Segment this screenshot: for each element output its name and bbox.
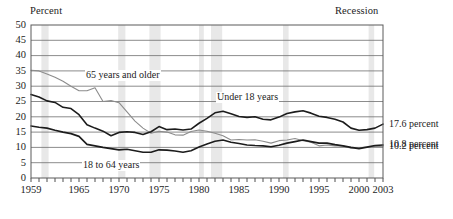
y-tick-45: 45 bbox=[0, 35, 26, 46]
y-tick-5: 5 bbox=[0, 158, 26, 169]
x-tick-label-2003: 2003 bbox=[363, 185, 403, 196]
series-label-18-to-64-years: 18 to 64 years bbox=[82, 160, 140, 171]
y-tick-20: 20 bbox=[0, 112, 26, 123]
y-tick-10: 10 bbox=[0, 142, 26, 153]
x-tick-label-1959: 1959 bbox=[11, 185, 51, 196]
y-tick-15: 15 bbox=[0, 127, 26, 138]
y-tick-35: 35 bbox=[0, 66, 26, 77]
y-tick-50: 50 bbox=[0, 20, 26, 31]
series-label-65-years-and-older: 65 years and older bbox=[85, 70, 161, 81]
x-tick-label-1970: 1970 bbox=[99, 185, 139, 196]
series-label-under-18-years: Under 18 years bbox=[216, 92, 279, 103]
end-label-under-18-years: 17.6 percent bbox=[389, 119, 438, 130]
y-tick-40: 40 bbox=[0, 50, 26, 61]
series-line-18-to-64-years bbox=[31, 126, 383, 152]
series-line-under-18-years bbox=[31, 94, 383, 135]
end-label-18-to-64-years: 10.8 percent bbox=[389, 139, 438, 150]
y-tick-25: 25 bbox=[0, 96, 26, 107]
x-tick-label-1985: 1985 bbox=[219, 185, 259, 196]
poverty-rate-line-chart: Percent Recession 05101520253035404550 1… bbox=[0, 0, 453, 219]
axis-ticks bbox=[31, 178, 383, 182]
x-tick-label-1965: 1965 bbox=[59, 185, 99, 196]
y-tick-30: 30 bbox=[0, 81, 26, 92]
x-tick-label-1975: 1975 bbox=[139, 185, 179, 196]
series-line-65-years-and-older bbox=[31, 70, 383, 148]
y-tick-0: 0 bbox=[0, 173, 26, 184]
x-tick-label-1995: 1995 bbox=[299, 185, 339, 196]
x-tick-label-1990: 1990 bbox=[259, 185, 299, 196]
x-tick-label-1980: 1980 bbox=[179, 185, 219, 196]
data-series bbox=[31, 70, 383, 152]
